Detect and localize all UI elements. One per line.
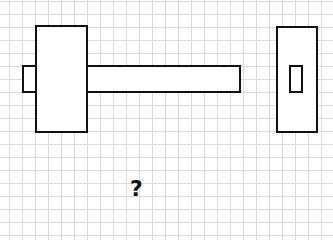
front-view-main-block (35, 25, 88, 133)
side-view-inner-square (289, 65, 303, 93)
missing-view-question-mark: ? (130, 176, 143, 202)
front-view-bar (86, 65, 241, 93)
